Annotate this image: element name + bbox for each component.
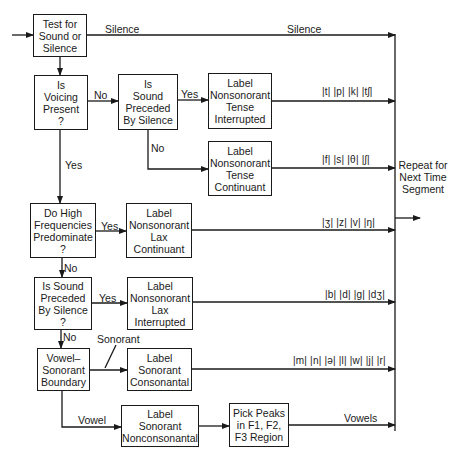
box-line: Frequencies xyxy=(34,219,92,231)
edge-label-sonorant: Sonorant xyxy=(97,333,140,345)
box-line: Predominate xyxy=(33,231,93,243)
high-frequencies-predominate-box: Do High Frequencies Predominate ? xyxy=(30,203,96,258)
box-line: Interrupted xyxy=(215,113,266,125)
box-line: Silence xyxy=(43,42,77,54)
box-line: Voicing xyxy=(44,91,78,103)
edge-label-silence-left: Silence xyxy=(105,23,139,35)
box-line: Tense xyxy=(226,101,254,113)
box-line: Nonsonorant xyxy=(130,292,190,304)
nonsonorant-lax-interrupted-box: Label Nonsonorant Lax Interrupted xyxy=(127,277,193,330)
box-line: Nonsonorant xyxy=(129,219,189,231)
box-line: Nonsonorant xyxy=(210,157,270,169)
phonemes-sonorant-consonantal: |m| |n| |ə| |l| |w| |j| |r| xyxy=(293,355,386,367)
box-line: Is xyxy=(144,78,152,90)
phonemes-nonsonorant-lax-interrupted: |b| |d| |g| |dʒ| xyxy=(325,289,385,301)
edge-label-vowel: Vowel xyxy=(78,414,106,426)
box-line: Nonsonorant xyxy=(210,89,270,101)
box-line: Test for xyxy=(43,18,77,30)
box-line: Label xyxy=(147,408,173,420)
box-line: Is Sound xyxy=(42,280,83,292)
edge-label-high-freq-yes: Yes xyxy=(101,220,118,232)
edge-label-preceded1-yes: Yes xyxy=(181,88,198,100)
box-line: ? xyxy=(60,316,66,328)
edge-label-silence-right: Silence xyxy=(287,23,321,35)
box-line: Do High xyxy=(44,207,82,219)
edge-label-preceded2-yes: Yes xyxy=(99,292,116,304)
phonemes-nonsonorant-lax-continuant: |ʒ| |z| |v| |ŋ| xyxy=(322,217,375,229)
test-sound-or-silence-box: Test for Sound or Silence xyxy=(33,14,87,57)
box-line: Preceded xyxy=(126,102,171,114)
nonsonorant-tense-interrupted-box: Label Nonsonorant Tense Interrupted xyxy=(208,73,272,129)
edge-label-preceded1-no: No xyxy=(151,142,164,154)
nonsonorant-lax-continuant-box: Label Nonsonorant Lax Continuant xyxy=(126,203,192,258)
edge-label-voicing-yes: Yes xyxy=(65,159,82,171)
nonsonorant-tense-continuant-box: Label Nonsonorant Tense Continuant xyxy=(208,141,272,196)
box-line: ? xyxy=(58,115,64,127)
box-line: Lax xyxy=(151,231,168,243)
box-line: Lax xyxy=(152,304,169,316)
phonemes-nonsonorant-tense-continuant: |f| |s| |θ| |ʃ| xyxy=(322,154,370,166)
box-line: Sonorant xyxy=(42,364,85,376)
phonemes-nonsonorant-tense-interrupted: |t| |p| |k| |tʃ| xyxy=(322,86,373,98)
box-line: ? xyxy=(60,243,66,255)
pick-peaks-box: Pick Peaks in F1, F2, F3 Region xyxy=(229,403,289,447)
box-line: Repeat for xyxy=(398,159,447,171)
edge-label-voicing-no: No xyxy=(94,89,107,101)
box-line: Sonorant xyxy=(139,420,182,432)
box-line: Vowel– xyxy=(47,352,81,364)
box-line: Label xyxy=(147,352,173,364)
box-line: Label xyxy=(227,145,253,157)
box-line: Label xyxy=(146,207,172,219)
repeat-next-segment-label: Repeat for Next Time Segment xyxy=(398,157,448,197)
box-line: Pick Peaks xyxy=(233,407,285,419)
edge-label-high-freq-no: No xyxy=(64,262,77,274)
box-line: Continuant xyxy=(215,181,266,193)
box-line: Label xyxy=(227,77,253,89)
sound-preceded-by-silence-box-2: Is Sound Preceded By Silence ? xyxy=(34,277,92,330)
sound-preceded-by-silence-box-1: Is Sound Preceded By Silence xyxy=(118,74,178,130)
box-line: By Silence xyxy=(38,304,88,316)
sonorant-consonantal-box: Label Sonorant Consonantal xyxy=(127,348,192,391)
box-line: Consonantal xyxy=(130,376,189,388)
voicing-present-box: Is Voicing Present ? xyxy=(34,75,88,130)
box-line: Sound or xyxy=(39,30,82,42)
sonorant-nonconsonantal-box: Label Sonorant Nonconsonantal xyxy=(121,405,199,447)
box-line: Label xyxy=(147,280,173,292)
edge-label-vowels: Vowels xyxy=(344,412,377,424)
box-line: Is xyxy=(57,79,65,91)
box-line: Nonconsonantal xyxy=(122,432,198,444)
box-line: Next Time xyxy=(399,171,446,183)
box-line: Sonorant xyxy=(138,364,181,376)
box-line: Present xyxy=(43,103,79,115)
box-line: Sound xyxy=(133,90,163,102)
box-line: Tense xyxy=(226,169,254,181)
box-line: By Silence xyxy=(123,114,173,126)
vowel-sonorant-boundary-box: Vowel– Sonorant Boundary xyxy=(37,348,90,391)
box-line: Interrupted xyxy=(135,316,186,328)
box-line: in F1, F2, xyxy=(237,419,281,431)
box-line: Continuant xyxy=(134,243,185,255)
box-line: Segment xyxy=(402,183,444,195)
edge-label-preceded2-no: No xyxy=(63,331,76,343)
box-line: F3 Region xyxy=(235,431,283,443)
box-line: Boundary xyxy=(41,376,86,388)
box-line: Preceded xyxy=(41,292,86,304)
